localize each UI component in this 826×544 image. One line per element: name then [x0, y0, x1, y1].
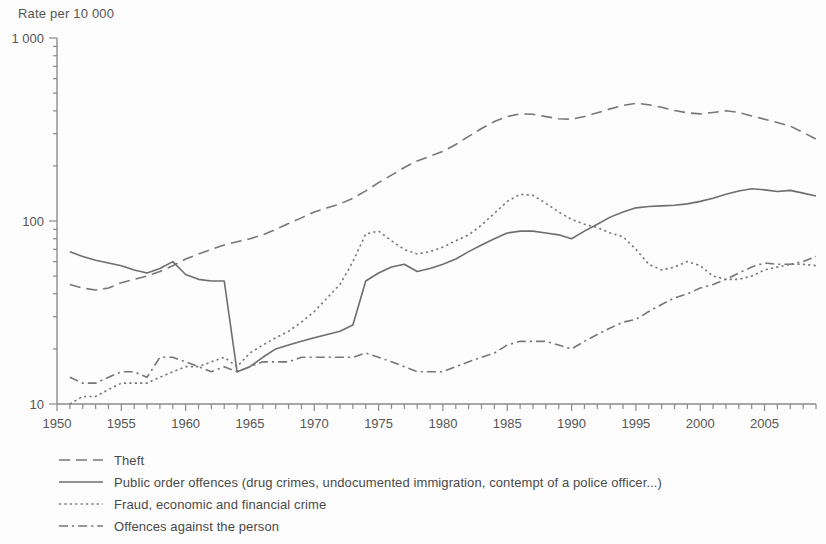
svg-text:1970: 1970	[300, 416, 329, 431]
svg-text:1975: 1975	[364, 416, 393, 431]
svg-text:10: 10	[30, 397, 44, 412]
line-chart-plot: 101001 000195019551960196519701975198019…	[0, 0, 826, 444]
svg-text:1965: 1965	[236, 416, 265, 431]
legend-item-0[interactable]: Theft	[58, 449, 818, 471]
svg-text:1 000: 1 000	[11, 31, 44, 46]
svg-text:1985: 1985	[493, 416, 522, 431]
svg-text:1980: 1980	[428, 416, 457, 431]
series-line-3	[70, 256, 816, 383]
svg-text:1995: 1995	[621, 416, 650, 431]
legend-swatch-solid-icon	[58, 476, 104, 488]
svg-text:2000: 2000	[686, 416, 715, 431]
chart-page: Rate per 10 000 101001 00019501955196019…	[0, 0, 826, 544]
legend-label: Theft	[114, 453, 144, 468]
legend-swatch-dashed-icon	[58, 454, 104, 466]
svg-text:1950: 1950	[43, 416, 72, 431]
series-line-0	[70, 103, 816, 290]
svg-text:1960: 1960	[171, 416, 200, 431]
legend-label: Fraud, economic and financial crime	[114, 497, 326, 512]
legend-item-3[interactable]: Offences against the person	[58, 515, 818, 537]
chart-legend: TheftPublic order offences (drug crimes,…	[58, 449, 818, 537]
svg-text:1955: 1955	[107, 416, 136, 431]
series-line-2	[70, 194, 816, 404]
legend-label: Offences against the person	[114, 519, 279, 534]
legend-item-1[interactable]: Public order offences (drug crimes, undo…	[58, 471, 818, 493]
svg-text:100: 100	[22, 214, 44, 229]
svg-text:2005: 2005	[750, 416, 779, 431]
legend-swatch-dashdot-icon	[58, 520, 104, 532]
series-line-1	[70, 189, 816, 372]
legend-label: Public order offences (drug crimes, undo…	[114, 475, 662, 490]
legend-swatch-dotted-icon	[58, 498, 104, 510]
legend-item-2[interactable]: Fraud, economic and financial crime	[58, 493, 818, 515]
svg-text:1990: 1990	[557, 416, 586, 431]
